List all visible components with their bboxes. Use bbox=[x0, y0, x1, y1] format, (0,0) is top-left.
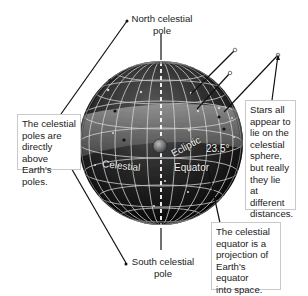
callout-line: equator is a bbox=[216, 238, 276, 250]
tilt-angle-label: 23.5° bbox=[206, 143, 229, 154]
label-line: South celestial bbox=[128, 256, 198, 268]
callout-line: they lie at bbox=[250, 174, 291, 197]
callout-line: poles are bbox=[22, 130, 76, 142]
callout-line: celestial bbox=[250, 139, 291, 151]
south-celestial-pole-label: South celestial pole bbox=[128, 256, 198, 279]
stars-callout: Stars all appear to lie on the celestial… bbox=[245, 100, 296, 210]
callout-line: appear to bbox=[250, 116, 291, 128]
callout-line: The celestial bbox=[216, 226, 276, 238]
label-line: pole bbox=[128, 268, 198, 280]
equator-label: Equator bbox=[174, 162, 209, 173]
callout-line: Stars all bbox=[250, 104, 291, 116]
callout-line: Earth's poles. bbox=[22, 164, 76, 187]
equator-callout: The celestial equator is a projection of… bbox=[211, 222, 281, 290]
callout-line: but really bbox=[250, 162, 291, 174]
label-line: North celestial bbox=[128, 13, 196, 25]
callout-line: distances. bbox=[250, 208, 291, 220]
callout-line: into space. bbox=[216, 284, 276, 296]
callout-line: The celestial bbox=[22, 118, 76, 130]
callout-line: sphere, bbox=[250, 150, 291, 162]
earth bbox=[153, 139, 167, 153]
callout-line: Earth's equator bbox=[216, 261, 276, 284]
callout-line: projection of bbox=[216, 249, 276, 261]
callout-line: lie on the bbox=[250, 127, 291, 139]
north-celestial-pole-label: North celestial pole bbox=[128, 13, 196, 36]
callout-line: directly above bbox=[22, 141, 76, 164]
label-line: pole bbox=[128, 25, 196, 37]
poles-callout: The celestial poles are directly above E… bbox=[17, 114, 81, 170]
celestial-sphere-diagram: North celestial pole South celestial pol… bbox=[0, 0, 308, 296]
callout-line: different bbox=[250, 197, 291, 209]
